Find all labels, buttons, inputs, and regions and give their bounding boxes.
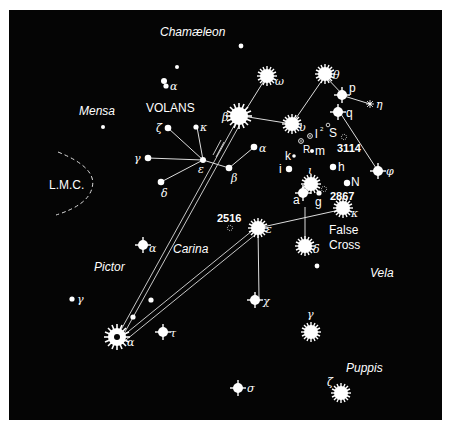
label-g: g [315, 195, 322, 209]
label-vol-gamma: γ [134, 152, 141, 165]
label-cross: Cross [329, 238, 360, 252]
label-vol-alpha: α [170, 80, 178, 93]
label-h: h [338, 160, 345, 174]
star-carina-theta [315, 64, 335, 84]
star-carina-omega [257, 66, 277, 86]
star-m [310, 149, 314, 153]
label-vel-eta: η [376, 98, 383, 111]
label-vol-delta: δ [161, 187, 168, 200]
star-carina-chi [247, 292, 263, 308]
label-S: S [329, 126, 337, 140]
label-false: False [329, 223, 359, 237]
star-puppis-gamma [301, 322, 321, 342]
label-chamaeleon: Chamæleon [160, 25, 226, 39]
label-m: m [315, 144, 325, 158]
label-car-alpha-small: α [259, 142, 267, 155]
label-vela: Vela [370, 266, 394, 280]
star-puppis-zeta [331, 383, 351, 403]
label-l2-sup: 2 [320, 126, 324, 132]
star-puppis-tau [155, 324, 171, 340]
star-volans-zeta [165, 125, 172, 132]
label-pup-gamma: γ [307, 308, 314, 321]
star-pictor-gamma [69, 296, 74, 301]
label-pictor: Pictor [94, 260, 126, 274]
label-pic-alpha: α [149, 242, 157, 255]
star-carina-dot-2 [130, 314, 135, 319]
star-volans-beta [226, 165, 233, 172]
label-car-upsilon: υ [299, 121, 306, 134]
star-chamaeleon-dot-2 [239, 44, 244, 49]
label-car-chi: χ [262, 295, 271, 308]
label-ngc2867: 2867 [330, 190, 354, 202]
label-pic-gamma: γ [77, 293, 84, 306]
label-car-beta: β [221, 111, 228, 124]
star-volans-kappa [193, 124, 198, 129]
label-ngc2516: 2516 [217, 212, 241, 224]
label-carina: Carina [173, 242, 209, 256]
label-car-theta: θ [333, 69, 340, 82]
star-h [330, 164, 336, 170]
label-vol-zeta: ζ [156, 122, 163, 135]
cluster-3114-icon [341, 134, 346, 139]
label-pup-tau: τ [170, 327, 177, 340]
star-volans-delta [158, 179, 165, 186]
label-vol-kappa: κ [199, 121, 208, 134]
star-volans-alpha [161, 78, 167, 84]
label-lmc: L.M.C. [49, 178, 84, 192]
label-vel-kappa: κ [350, 207, 359, 220]
label-i: i [279, 162, 282, 176]
star-carina-epsilon [248, 218, 268, 238]
star-carina-dot-1 [148, 297, 153, 302]
label-car-epsilon: ε [266, 223, 272, 236]
label-car-iota: ι [308, 164, 312, 177]
label-k: k [285, 149, 292, 163]
carina-double-lines [117, 115, 261, 344]
label-vol-beta: β [230, 172, 237, 185]
star-vela-p [334, 87, 350, 103]
star-k [292, 154, 296, 158]
star-vela-dot [315, 264, 320, 269]
label-canopus: α [127, 336, 135, 349]
label-vel-delta: δ [313, 243, 320, 256]
star-i [286, 166, 292, 172]
star-volans-gamma [145, 155, 152, 162]
label-l2: l [315, 127, 318, 141]
star-mensa-dot [101, 125, 105, 129]
label-vel-phi: φ [386, 165, 394, 178]
label-car-omega: ω [275, 75, 284, 88]
star-chamaeleon-dot [175, 65, 179, 69]
label-N: N [351, 175, 360, 189]
label-vel-q: q [346, 106, 353, 120]
label-R: R [303, 144, 310, 155]
label-ngc3114: 3114 [337, 142, 362, 154]
label-a: a [293, 193, 300, 207]
star-chart: Chamæleon VOLANS Mensa L.M.C. Carina Pic… [0, 0, 450, 430]
label-pup-zeta: ζ [327, 376, 334, 389]
star-vela-phi [370, 163, 386, 179]
star-vela-delta [295, 236, 315, 256]
label-volans: VOLANS [146, 101, 195, 115]
star-N [344, 180, 350, 186]
label-vol-epsilon: ε [198, 163, 204, 176]
cluster-2867-icon [321, 186, 326, 191]
star-carina-alpha-small [251, 144, 258, 151]
star-puppis-sigma [230, 380, 246, 396]
label-mensa: Mensa [79, 104, 115, 118]
label-vel-p: p [349, 81, 356, 95]
cluster-2516-icon [227, 225, 232, 230]
label-pup-sigma: σ [247, 382, 255, 395]
label-puppis: Puppis [346, 361, 383, 375]
